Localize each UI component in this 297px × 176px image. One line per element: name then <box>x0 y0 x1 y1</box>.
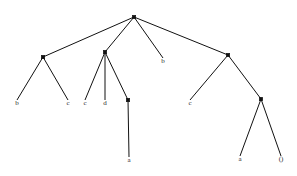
tree-edge <box>85 52 105 100</box>
tree-nodes-group <box>41 15 262 101</box>
tree-edge <box>43 57 68 100</box>
tree-edge <box>105 52 128 100</box>
tree-leaf-label: b <box>15 99 19 107</box>
tree-leaf-label: b <box>161 57 165 65</box>
tree-edge <box>190 55 228 100</box>
tree-node-dot <box>226 53 229 56</box>
tree-edge <box>134 17 228 55</box>
tree-edge <box>128 100 129 157</box>
tree-edge <box>105 17 134 52</box>
tree-leaf-label: a <box>127 156 131 164</box>
tree-node-dot <box>126 98 129 101</box>
tree-node-dot <box>259 97 262 100</box>
tree-leaf-label: a <box>238 155 242 163</box>
tree-edges-group <box>17 17 281 157</box>
tree-node-dot <box>103 50 106 53</box>
tree-leaf-label: c <box>66 99 69 107</box>
tree-edge <box>228 55 261 99</box>
tree-node-dot <box>132 15 135 18</box>
tree-edge <box>240 99 261 156</box>
tree-edge <box>43 17 134 57</box>
tree-leaf-label: c <box>188 99 191 107</box>
tree-leaf-label: d <box>103 99 107 107</box>
tree-node-dot <box>41 55 44 58</box>
tree-diagram-svg: bccdabca() <box>0 0 297 176</box>
tree-diagram-canvas: bccdabca() <box>0 0 297 176</box>
tree-leaf-label: () <box>279 155 284 163</box>
tree-edge <box>17 57 43 100</box>
tree-edge <box>261 99 281 156</box>
tree-leaf-labels-group: bccdabca() <box>15 57 284 164</box>
tree-leaf-label: c <box>83 99 86 107</box>
